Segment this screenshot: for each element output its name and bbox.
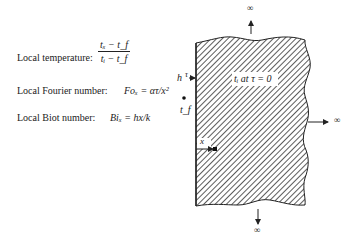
- infinity-bottom-label: ∞: [254, 225, 260, 235]
- x-distance-label: x: [200, 136, 204, 146]
- fluid-temperature-label: t_f: [180, 104, 191, 115]
- solid-body: [196, 37, 310, 206]
- infinity-right-label: ∞: [334, 115, 340, 125]
- infinity-top-label: ∞: [247, 3, 253, 13]
- semi-infinite-solid-diagram: [0, 0, 356, 237]
- solid-initial-temperature-label: tᵢ at τ = 0: [234, 73, 271, 84]
- tau-label: τ: [185, 70, 188, 79]
- heat-transfer-coefficient-label: h: [177, 72, 182, 83]
